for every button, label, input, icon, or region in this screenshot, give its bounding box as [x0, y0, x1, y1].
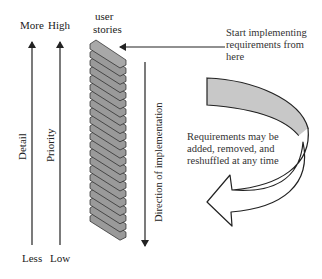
detail-axis-top-label: More	[20, 19, 44, 31]
start-note-line3: here	[226, 51, 307, 63]
priority-axis-top-label: High	[48, 19, 70, 31]
reshuffle-note-line2: added, removed, and	[187, 143, 279, 155]
direction-label: Direction of implementation	[153, 102, 164, 222]
reshuffle-note: Requirements may be added, removed, and …	[187, 131, 279, 167]
start-note-line1: Start implementing	[226, 27, 307, 39]
start-note: Start implementing requirements from her…	[226, 27, 307, 63]
priority-axis-title: Priority	[44, 128, 56, 162]
user-stories-label-line2: stories	[93, 23, 122, 35]
start-note-line2: requirements from	[226, 39, 307, 51]
user-stories-stack	[90, 40, 126, 240]
detail-axis-title: Detail	[16, 133, 28, 160]
detail-axis-bottom-label: Less	[22, 252, 42, 264]
user-stories-label-line1: user	[95, 10, 113, 22]
priority-axis-bottom-label: Low	[50, 252, 70, 264]
reshuffle-note-line3: reshuffled at any time	[187, 155, 279, 167]
reshuffle-note-line1: Requirements may be	[187, 131, 279, 143]
